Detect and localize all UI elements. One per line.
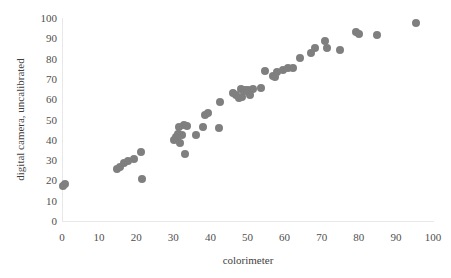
x-axis-title: colorimeter [62, 254, 434, 266]
data-point [176, 139, 184, 147]
data-point [373, 31, 381, 39]
plot-area [62, 18, 433, 221]
x-tick-label: 0 [59, 232, 65, 243]
data-point [289, 64, 297, 72]
y-axis-title: digital camera, uncalibrated [14, 18, 28, 221]
data-point [192, 131, 200, 139]
data-point [216, 98, 224, 106]
data-point [336, 46, 344, 54]
x-tick-label: 60 [279, 232, 290, 243]
x-tick-label: 90 [390, 232, 401, 243]
x-tick-label: 40 [205, 232, 216, 243]
data-point [296, 54, 304, 62]
data-point [137, 148, 145, 156]
data-point [138, 175, 146, 183]
y-tick-label: 80 [46, 54, 57, 65]
data-point [61, 180, 69, 188]
data-point [204, 109, 212, 117]
x-tick-label: 30 [168, 232, 179, 243]
data-point [257, 84, 265, 92]
y-tick-label: 60 [46, 94, 57, 105]
scatter-chart: 0102030405060708090100 colorimeter digit… [0, 0, 451, 278]
data-point [199, 123, 207, 131]
x-axis-line [62, 221, 434, 222]
y-tick-label: 50 [46, 115, 57, 126]
data-point [249, 85, 257, 93]
y-tick-label: 20 [46, 175, 57, 186]
y-axis-tick-labels: 0102030405060708090100 [0, 0, 57, 278]
data-point [261, 67, 269, 75]
y-tick-label: 10 [46, 196, 57, 207]
y-tick-label: 0 [52, 216, 58, 227]
x-tick-label: 10 [94, 232, 105, 243]
x-tick-label: 20 [131, 232, 142, 243]
data-point [323, 44, 331, 52]
y-tick-label: 30 [46, 155, 57, 166]
data-point [130, 155, 138, 163]
data-point [183, 122, 191, 130]
x-tick-label: 50 [242, 232, 253, 243]
data-point [355, 30, 363, 38]
x-tick-label: 70 [316, 232, 327, 243]
y-tick-label: 90 [46, 33, 57, 44]
x-tick-label: 80 [353, 232, 364, 243]
x-tick-label: 100 [425, 232, 442, 243]
data-point [181, 150, 189, 158]
data-point [178, 131, 186, 139]
y-tick-label: 70 [46, 74, 57, 85]
data-point [412, 19, 420, 27]
y-tick-label: 40 [46, 135, 57, 146]
data-point [311, 44, 319, 52]
data-point [215, 124, 223, 132]
y-tick-label: 100 [41, 13, 58, 24]
